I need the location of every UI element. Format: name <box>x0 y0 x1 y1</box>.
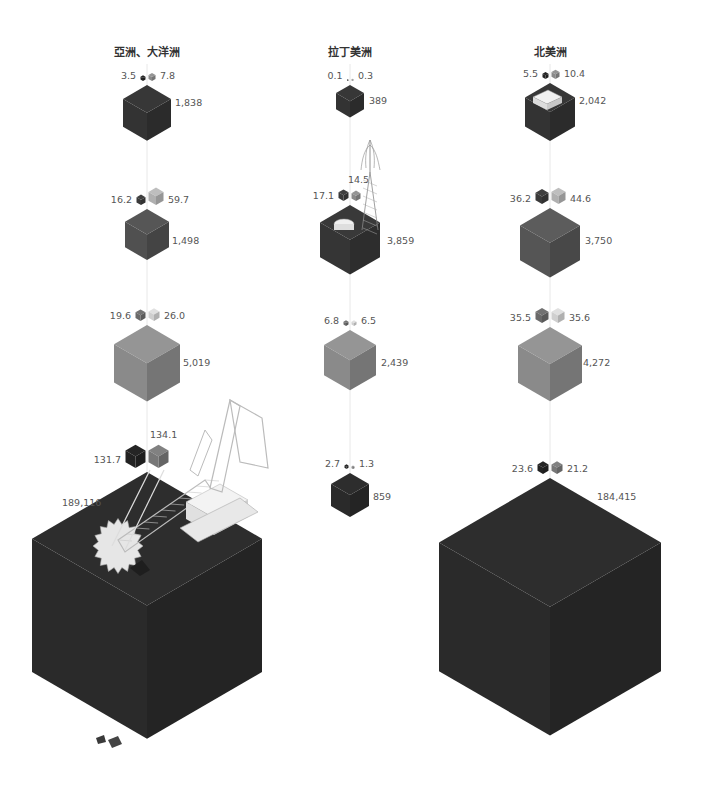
main-cube <box>324 330 376 390</box>
total-label: 3,859 <box>387 235 414 246</box>
value-label: 59.7 <box>168 194 189 205</box>
value-label: 6.5 <box>361 315 376 326</box>
total-label: 184,415 <box>597 491 636 502</box>
value-label: 23.6 <box>512 463 533 474</box>
value-label: 14.5 <box>348 174 369 185</box>
value-label: 1.3 <box>359 458 374 469</box>
small-cube-left <box>339 189 349 201</box>
value-label: 2.7 <box>325 458 340 469</box>
main-cube <box>439 478 661 736</box>
small-cube-left <box>136 309 146 321</box>
value-label: 5.5 <box>523 68 538 79</box>
small-cube-right <box>149 73 156 81</box>
small-cube-left <box>141 75 146 81</box>
main-cube <box>336 85 364 117</box>
small-cube-right <box>552 70 560 79</box>
small-cube-left <box>347 79 349 81</box>
region-title: 拉丁美洲 <box>328 45 372 59</box>
region-title: 亞洲、大洋洲 <box>114 45 180 59</box>
value-label: 131.7 <box>94 454 121 465</box>
value-label: 35.5 <box>510 312 531 323</box>
small-cube-left <box>543 72 549 79</box>
small-cube-right <box>352 191 361 201</box>
value-label: 21.2 <box>567 463 588 474</box>
small-cube-right <box>149 188 164 205</box>
value-label: 0.1 <box>327 70 342 81</box>
small-cube-left <box>344 320 349 326</box>
value-label: 10.4 <box>564 68 585 79</box>
small-cube-right <box>552 188 566 204</box>
total-label: 4,272 <box>583 357 610 368</box>
value-label: 35.6 <box>569 312 590 323</box>
small-cube-right <box>552 461 563 474</box>
small-cube-right <box>352 320 357 326</box>
total-label: 1,498 <box>172 235 199 246</box>
value-label: 44.6 <box>570 193 591 204</box>
total-label: 5,019 <box>183 357 210 368</box>
region-title: 北美洲 <box>534 45 567 59</box>
small-cube-left <box>538 461 549 474</box>
small-cube-left <box>126 445 146 468</box>
value-label: 26.0 <box>164 310 185 321</box>
value-label: 7.8 <box>160 70 175 81</box>
total-label: 1,838 <box>175 97 202 108</box>
value-label: 3.5 <box>121 70 136 81</box>
value-label: 0.3 <box>358 70 373 81</box>
value-label: 6.8 <box>324 315 339 326</box>
small-cube-right <box>352 466 355 469</box>
main-cube <box>123 85 171 141</box>
small-cube-left <box>345 464 349 469</box>
total-label: 189,116 <box>62 497 101 508</box>
total-label: 3,750 <box>585 235 612 246</box>
small-cube-left <box>536 189 549 204</box>
value-label: 19.6 <box>110 310 131 321</box>
total-label: 2,042 <box>579 95 606 106</box>
small-cube-right <box>552 308 565 323</box>
value-label: 36.2 <box>510 193 531 204</box>
cube-chart: 亞洲、大洋洲3.57.81,83816.259.71,49819.626.05,… <box>0 0 702 792</box>
small-cube-right <box>149 445 169 468</box>
cubes-layer <box>32 70 661 739</box>
main-cube <box>520 208 580 278</box>
small-cube-left <box>137 195 146 205</box>
total-label: 389 <box>369 95 387 106</box>
value-label: 134.1 <box>150 429 177 440</box>
total-label: 2,439 <box>381 357 408 368</box>
value-label: 17.1 <box>313 190 334 201</box>
small-cube-right <box>352 79 354 81</box>
main-cube <box>518 327 582 401</box>
total-label: 859 <box>373 491 391 502</box>
small-cube-right <box>149 308 160 321</box>
main-cube <box>331 473 369 517</box>
main-cube <box>125 209 169 260</box>
main-cube <box>114 325 180 402</box>
small-cube-left <box>536 308 549 323</box>
value-label: 16.2 <box>111 194 132 205</box>
